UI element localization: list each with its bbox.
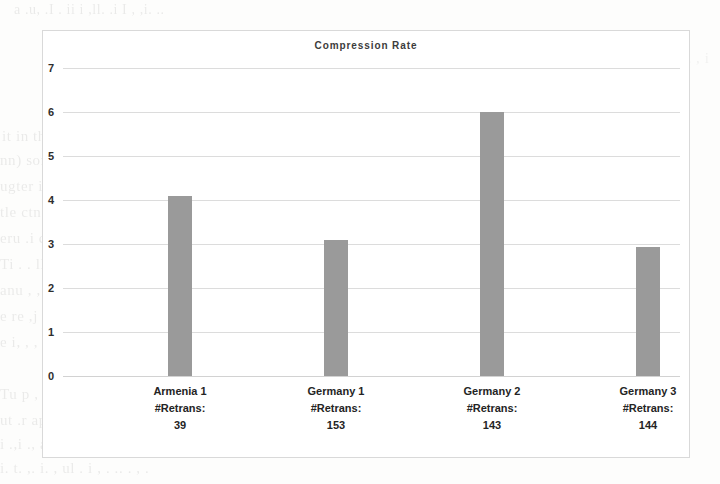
category-retrans-label: #Retrans: [417,400,567,417]
category-retrans-value: 153 [261,417,411,434]
gridline-0-baseline: 0 [63,376,680,377]
bar-germany-2[interactable] [480,112,504,376]
x-axis-category-germany-1: Germany 1 #Retrans: 153 [261,383,411,434]
category-name: Germany 2 [417,383,567,400]
y-axis-tick-label: 0 [48,371,54,382]
category-name: Armenia 1 [105,383,255,400]
y-axis-tick-label: 7 [48,63,54,74]
x-axis-category-labels: Armenia 1 #Retrans: 39 Germany 1 #Retran… [63,383,680,453]
x-axis-category-armenia-1: Armenia 1 #Retrans: 39 [105,383,255,434]
gridline-1: 1 [63,332,680,333]
gridline-5: 5 [63,156,680,157]
gridline-2: 2 [63,288,680,289]
category-retrans-label: #Retrans: [573,400,720,417]
y-axis-tick-label: 5 [48,151,54,162]
y-axis-tick-label: 3 [48,239,54,250]
category-retrans-value: 39 [105,417,255,434]
gridline-7: 7 [63,68,680,69]
category-retrans-value: 144 [573,417,720,434]
gridline-4: 4 [63,200,680,201]
bar-armenia-1[interactable] [168,196,192,376]
gridline-3: 3 [63,244,680,245]
category-name: Germany 3 [573,383,720,400]
category-retrans-value: 143 [417,417,567,434]
gridline-6: 6 [63,112,680,113]
bleed-line: i. t. ,. i. , ul . i , . .. . , . [0,460,149,477]
y-axis-tick-label: 4 [48,195,54,206]
bleed-line: a .u, .I . ii i ,ll. .i I , ,i. .. [14,2,165,18]
chart-title: Compression Rate [43,40,689,51]
bar-germany-1[interactable] [324,240,348,376]
y-axis-tick-label: 6 [48,107,54,118]
category-name: Germany 1 [261,383,411,400]
category-retrans-label: #Retrans: [105,400,255,417]
chart-figure: Compression Rate 7 6 5 4 3 2 1 0 [42,30,690,458]
y-axis-tick-label: 2 [48,283,54,294]
x-axis-category-germany-3: Germany 3 #Retrans: 144 [573,383,720,434]
y-axis-tick-label: 1 [48,327,54,338]
x-axis-category-germany-2: Germany 2 #Retrans: 143 [417,383,567,434]
bar-germany-3[interactable] [636,247,660,376]
plot-area: 7 6 5 4 3 2 1 0 [63,68,680,376]
category-retrans-label: #Retrans: [261,400,411,417]
